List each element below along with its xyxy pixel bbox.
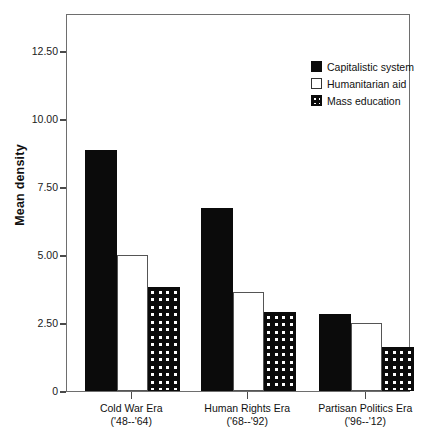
x-tick-mark [247,392,248,399]
x-tick-mark [365,392,366,399]
y-tick-label: 5.00 [18,249,58,261]
legend-item-label: Humanitarian aid [327,78,406,90]
y-tick-label: 7.50 [18,181,58,193]
y-tick-label: 0 [18,385,58,397]
solid-black-swatch [311,61,322,72]
x-group-label-name: Cold War Era [100,402,163,414]
bar [85,150,117,391]
legend-item: Humanitarian aid [311,76,414,91]
legend-item: Capitalistic system [311,59,414,74]
legend-item-label: Capitalistic system [327,61,414,73]
x-group-label-years: ('96--'12) [295,415,427,428]
checkered-swatch [311,95,322,106]
bar [117,255,149,391]
bar [148,287,180,391]
legend-item: Mass education [311,93,414,108]
bar [351,323,383,391]
bar [319,314,351,392]
x-group-label: Partisan Politics Era('96--'12) [295,402,427,428]
bar [201,208,233,391]
x-group-label-name: Partisan Politics Era [318,402,412,414]
y-tick-label: 2.50 [18,317,58,329]
plot-area: Capitalistic systemHumanitarian aidMass … [66,14,410,392]
open-white-swatch [311,78,322,89]
x-group-label-name: Human Rights Era [204,402,290,414]
bar [264,312,296,391]
y-tick-label: 12.50 [18,45,58,57]
y-tick-label: 10.00 [18,113,58,125]
bar-chart: Mean density 02.505.007.5010.0012.50 Cap… [0,0,427,443]
legend: Capitalistic systemHumanitarian aidMass … [311,59,414,110]
bar [233,292,265,391]
legend-item-label: Mass education [327,95,401,107]
bar [382,347,414,391]
x-tick-mark [131,392,132,399]
